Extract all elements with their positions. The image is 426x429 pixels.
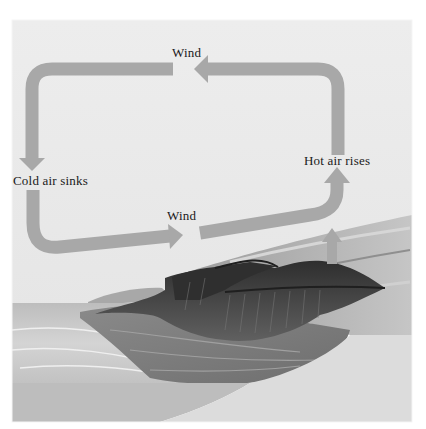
sea-breeze-diagram: Wind Cold air sinks Hot air rises Wind — [0, 0, 426, 429]
label-wind-bottom: Wind — [167, 208, 196, 224]
label-cold-air-sinks: Cold air sinks — [13, 173, 88, 189]
diagram-artwork — [0, 0, 426, 429]
label-hot-air-rises: Hot air rises — [304, 153, 370, 169]
label-wind-top: Wind — [172, 45, 201, 61]
